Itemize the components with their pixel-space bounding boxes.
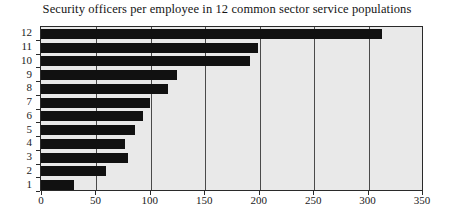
bar-row [41,110,423,124]
bar-8 [41,84,168,94]
bar-row [41,178,423,191]
bar-2 [41,166,106,176]
x-tick-label-50: 50 [90,195,101,205]
x-tick-label-100: 100 [142,195,159,205]
bar-chart: Security officers per employee in 12 com… [0,0,454,205]
bar-row [41,55,423,69]
y-tick-label-12: 12 [21,27,32,38]
y-tick-label-2: 2 [27,165,33,176]
y-tick-label-1: 1 [27,179,33,190]
bar-row [41,151,423,165]
y-tick-label-5: 5 [27,124,33,135]
bar-row [41,27,423,41]
x-axis: 050100150200250300350 [40,191,423,205]
x-tick-label-350: 350 [414,195,431,205]
y-tick-label-6: 6 [27,110,33,121]
bar-5 [41,125,135,135]
y-tick-label-7: 7 [27,96,33,107]
y-tick-label-9: 9 [27,69,33,80]
x-tick-label-200: 200 [250,195,267,205]
bar-row [41,137,423,151]
y-tick-label-4: 4 [27,137,33,148]
bar-12 [41,29,382,39]
x-tick-label-0: 0 [38,195,44,205]
bar-row [41,96,423,110]
bar-4 [41,139,125,149]
bar-row [41,82,423,96]
bar-row [41,41,423,55]
bar-9 [41,70,177,80]
bar-1 [41,180,74,190]
y-tick-label-3: 3 [27,151,33,162]
bar-3 [41,153,128,163]
x-tick-label-300: 300 [359,195,376,205]
bar-row [41,123,423,137]
x-tick-label-150: 150 [196,195,213,205]
bar-6 [41,111,143,121]
bars-group [41,27,422,190]
y-axis: 121110987654321 [0,26,36,191]
plot-area [40,26,423,191]
bar-row [41,68,423,82]
y-tick-label-10: 10 [21,55,32,66]
bar-10 [41,56,250,66]
bar-7 [41,98,150,108]
bar-row [41,165,423,179]
y-tick-label-8: 8 [27,82,33,93]
x-tick-label-250: 250 [305,195,322,205]
chart-title: Security officers per employee in 12 com… [0,2,454,17]
bar-11 [41,43,258,53]
y-tick-label-11: 11 [21,41,32,52]
